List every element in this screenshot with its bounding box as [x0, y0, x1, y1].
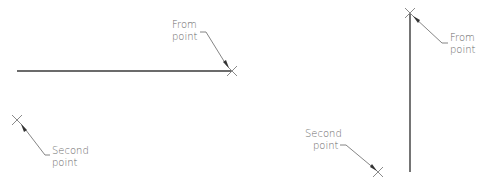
second-point-label-line2: point: [52, 157, 78, 168]
second-point-label-line1: Second: [52, 145, 89, 156]
from-point-leader: [413, 16, 448, 43]
second-point-leader: [340, 145, 377, 171]
second-point-label-line1: Second: [305, 128, 342, 139]
from-point-label-line1: From: [450, 32, 475, 43]
diagram-canvas: From point Second point From point: [0, 0, 480, 185]
from-point-label-line2: point: [450, 44, 476, 55]
second-point-label-line2: point: [313, 140, 339, 151]
right-figure: From point Second point: [305, 8, 476, 177]
from-point-label-line2: point: [172, 31, 198, 42]
second-point-marker-icon: [12, 115, 22, 125]
second-point-leader: [21, 124, 50, 155]
from-point-label-line1: From: [172, 19, 197, 30]
from-point-leader: [200, 32, 229, 68]
left-figure: From point Second point: [12, 19, 237, 168]
